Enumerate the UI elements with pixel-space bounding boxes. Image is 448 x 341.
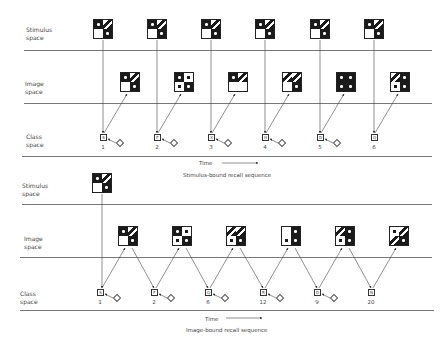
arrows-layer (0, 0, 448, 341)
